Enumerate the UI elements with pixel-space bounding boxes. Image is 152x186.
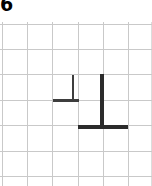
figure-panel: 6 (0, 0, 152, 186)
large-inverted-t-base (78, 125, 128, 129)
shape-layer (0, 0, 152, 186)
large-inverted-t (0, 0, 152, 186)
large-inverted-t-stem (100, 74, 104, 126)
